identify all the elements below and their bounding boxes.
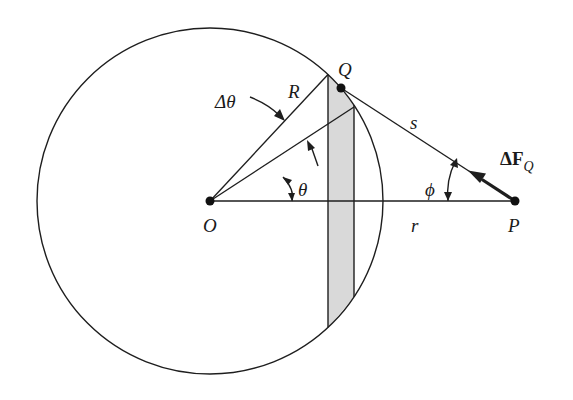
label-delta-theta: Δθ [214, 91, 235, 112]
phi-arrowhead-bottom-icon [444, 192, 452, 201]
label-force: ΔFQ [500, 148, 534, 174]
label-r: r [411, 215, 419, 236]
force-vector [482, 180, 515, 202]
theta-pointer-arrowhead-icon [307, 140, 315, 151]
theta-arrowhead-top-icon [283, 177, 292, 185]
label-force-subscript: Q [524, 159, 534, 174]
label-s: s [410, 112, 417, 133]
label-theta: θ [298, 179, 307, 200]
label-R: R [287, 81, 300, 102]
point-O [206, 197, 215, 206]
sphere-force-diagram: O P Q R s r Δθ θ ϕ ΔFQ [0, 0, 573, 400]
point-P [511, 197, 520, 206]
label-O: O [203, 215, 217, 236]
label-force-main: ΔF [500, 148, 524, 169]
point-Q [337, 84, 346, 93]
label-Q: Q [338, 59, 352, 80]
theta-arrowhead-bottom-icon [288, 193, 295, 201]
label-phi: ϕ [425, 179, 435, 200]
delta-theta-arrowhead-icon [274, 109, 285, 121]
delta-theta-pointer [250, 97, 279, 115]
label-P: P [507, 215, 520, 236]
